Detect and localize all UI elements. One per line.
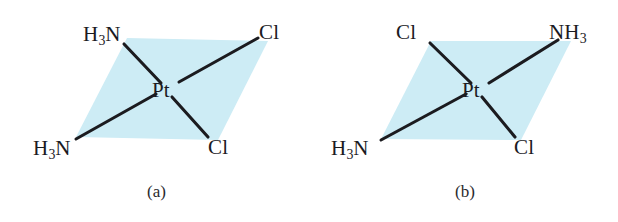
ligand-label-bottom-left: H3N — [331, 138, 369, 162]
ligand-label-top-right: Cl — [259, 22, 279, 43]
ligand-label-bottom-left: H3N — [33, 138, 71, 162]
center-atom-label: Pt — [152, 80, 170, 101]
ligand-label-top-left: H3N — [83, 24, 121, 48]
panel-caption-a: (a) — [147, 183, 166, 200]
figure-root: H3N Cl H3N Cl Pt (a) Cl NH3 H3N Cl Pt (b… — [0, 0, 618, 222]
ligand-label-bottom-right: Cl — [514, 137, 534, 158]
structure-panel-b: Cl NH3 H3N Cl Pt (b) — [309, 0, 618, 222]
panel-caption-b: (b) — [455, 183, 475, 200]
ligand-label-top-right: NH3 — [549, 22, 587, 46]
center-atom-label: Pt — [462, 80, 480, 101]
structure-panel-a: H3N Cl H3N Cl Pt (a) — [0, 0, 309, 222]
ligand-label-top-left: Cl — [396, 22, 416, 43]
ligand-label-bottom-right: Cl — [208, 137, 228, 158]
coordination-plane-parallelogram — [76, 38, 268, 140]
